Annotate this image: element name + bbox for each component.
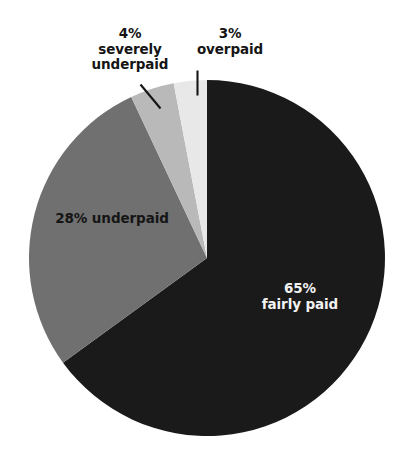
slice-percent-overpaid: 3% (182, 26, 278, 42)
slice-category-severely-underpaid-line2: underpaid (74, 57, 186, 73)
slice-category-overpaid: overpaid (182, 42, 278, 58)
slice-label-underpaid: 28% underpaid (36, 211, 188, 227)
pie-chart: 4% severely underpaid 3% overpaid 28% un… (0, 0, 413, 465)
pie-chart-canvas (0, 0, 413, 465)
slice-percent-fairly-paid: 65% (244, 281, 356, 297)
slice-category-fairly-paid: fairly paid (244, 297, 356, 313)
slice-text-underpaid: 28% underpaid (55, 210, 168, 226)
slice-percent-severely-underpaid: 4% (74, 26, 186, 42)
slice-label-fairly-paid: 65% fairly paid (244, 281, 356, 312)
slice-category-severely-underpaid-line1: severely (74, 42, 186, 58)
slice-label-overpaid: 3% overpaid (182, 26, 278, 57)
slice-label-severely-underpaid: 4% severely underpaid (74, 26, 186, 73)
